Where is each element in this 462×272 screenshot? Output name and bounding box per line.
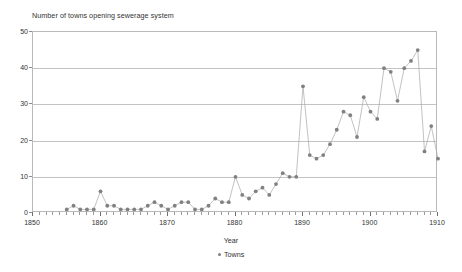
x-minor-tick <box>93 212 94 215</box>
x-major-tick <box>370 212 371 216</box>
data-point <box>328 142 332 146</box>
data-point <box>126 207 130 211</box>
data-point <box>396 99 400 103</box>
x-minor-tick <box>52 212 53 215</box>
x-tick-label: 1910 <box>429 219 445 226</box>
x-minor-tick <box>120 212 121 215</box>
data-point <box>308 153 312 157</box>
x-major-tick <box>437 212 438 216</box>
data-point <box>423 150 427 154</box>
series-line <box>67 50 438 209</box>
circle-marker-icon <box>218 253 221 256</box>
data-point <box>348 113 352 117</box>
x-minor-tick <box>106 212 107 215</box>
data-point <box>139 207 143 211</box>
data-point <box>315 157 319 161</box>
x-minor-tick <box>343 212 344 215</box>
x-tick-label: 1880 <box>227 219 243 226</box>
x-minor-tick <box>174 212 175 215</box>
x-minor-tick <box>417 212 418 215</box>
x-minor-tick <box>187 212 188 215</box>
data-point <box>65 207 69 211</box>
data-point <box>301 84 305 88</box>
data-point <box>72 204 76 208</box>
x-minor-tick <box>228 212 229 215</box>
data-point <box>220 200 224 204</box>
x-minor-tick <box>322 212 323 215</box>
y-tick-label: 30 <box>20 100 28 107</box>
x-minor-tick <box>160 212 161 215</box>
x-minor-tick <box>133 212 134 215</box>
data-point <box>132 207 136 211</box>
x-tick-label: 1870 <box>159 219 175 226</box>
data-point <box>362 95 366 99</box>
x-tick-label: 1890 <box>294 219 310 226</box>
data-point <box>153 200 157 204</box>
x-minor-tick <box>214 212 215 215</box>
data-point <box>281 171 285 175</box>
x-minor-tick <box>127 212 128 215</box>
x-minor-tick <box>336 212 337 215</box>
data-point <box>254 189 258 193</box>
data-point <box>166 207 170 211</box>
x-minor-tick <box>383 212 384 215</box>
data-point <box>274 182 278 186</box>
data-point <box>369 110 373 114</box>
data-point <box>105 204 109 208</box>
x-major-tick <box>302 212 303 216</box>
x-minor-tick <box>255 212 256 215</box>
x-minor-tick <box>397 212 398 215</box>
x-minor-tick <box>363 212 364 215</box>
x-minor-tick <box>268 212 269 215</box>
y-tick-label: 50 <box>20 28 28 35</box>
data-point <box>78 207 82 211</box>
data-point <box>294 175 298 179</box>
data-point <box>227 200 231 204</box>
x-minor-tick <box>86 212 87 215</box>
data-point <box>382 66 386 70</box>
x-minor-tick <box>79 212 80 215</box>
x-minor-tick <box>59 212 60 215</box>
data-series-towns <box>33 32 438 213</box>
data-point <box>321 153 325 157</box>
data-point <box>213 197 217 201</box>
x-major-tick <box>235 212 236 216</box>
x-minor-tick <box>113 212 114 215</box>
y-tick-label: 0 <box>24 209 28 216</box>
x-tick-label: 1900 <box>362 219 378 226</box>
chart-legend: Towns <box>0 250 462 259</box>
data-point <box>261 186 265 190</box>
x-minor-tick <box>349 212 350 215</box>
data-point <box>416 48 420 52</box>
x-minor-tick <box>424 212 425 215</box>
chart-container: Number of towns opening sewerage system … <box>0 0 462 272</box>
data-point <box>389 70 393 74</box>
x-minor-tick <box>194 212 195 215</box>
data-point <box>186 200 190 204</box>
legend-label-towns: Towns <box>224 250 244 259</box>
plot-area <box>32 31 437 212</box>
x-minor-tick <box>282 212 283 215</box>
x-minor-tick <box>390 212 391 215</box>
data-point <box>247 197 251 201</box>
data-point <box>355 135 359 139</box>
chart-title: Number of towns opening sewerage system <box>32 11 174 20</box>
x-minor-tick <box>147 212 148 215</box>
x-minor-tick <box>376 212 377 215</box>
data-point <box>288 175 292 179</box>
data-point <box>112 204 116 208</box>
y-axis-labels: 01020304050 <box>8 31 28 212</box>
data-point <box>335 128 339 132</box>
x-minor-tick <box>140 212 141 215</box>
data-point <box>99 189 103 193</box>
x-minor-tick <box>248 212 249 215</box>
data-point <box>119 207 123 211</box>
x-minor-tick <box>316 212 317 215</box>
y-tick-label: 20 <box>20 136 28 143</box>
data-point <box>267 193 271 197</box>
data-point <box>342 110 346 114</box>
x-minor-tick <box>201 212 202 215</box>
data-point <box>436 157 440 161</box>
x-tick-label: 1850 <box>24 219 40 226</box>
x-minor-tick <box>295 212 296 215</box>
